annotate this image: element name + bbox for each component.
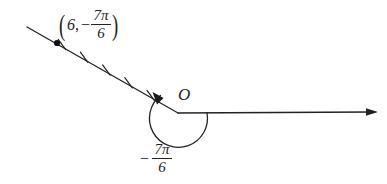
- fraction-denominator: 6: [95, 25, 107, 41]
- angle-measure-fraction: 7π 6: [152, 142, 172, 175]
- minus-sign: −: [81, 17, 90, 33]
- angle-measure-label: − 7π 6: [140, 142, 172, 175]
- polar-axis-arrowhead-icon: [366, 108, 378, 116]
- origin-label: O: [178, 86, 190, 103]
- angle-fraction: 7π 6: [91, 8, 111, 41]
- angle-fraction-denominator: 6: [156, 159, 168, 175]
- comma-separator: ,: [75, 17, 79, 33]
- point-coordinate-label: ( 6 , − 7π 6 ): [58, 8, 119, 41]
- tick-mark-4: [80, 52, 88, 62]
- fraction-numerator: 7π: [92, 8, 111, 24]
- angle-minus-sign: −: [140, 151, 149, 167]
- radius-value: 6: [67, 17, 75, 33]
- polar-axis-group: [178, 108, 378, 116]
- close-paren: ): [112, 12, 118, 38]
- polar-angle-figure: ( 6 , − 7π 6 ) O − 7π 6: [0, 0, 387, 184]
- angle-fraction-numerator: 7π: [153, 142, 172, 158]
- open-paren: (: [59, 12, 65, 38]
